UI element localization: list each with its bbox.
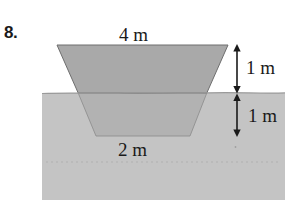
trapezoid-below-grade	[78, 93, 207, 136]
top-width-label: 4 m	[119, 25, 148, 44]
dimension-arrow-above-ground	[233, 44, 240, 94]
trapezoid-above-grade	[57, 45, 228, 93]
height-above-ground-label: 1 m	[246, 58, 275, 77]
scan-speck	[235, 146, 237, 148]
problem-number-label: 8.	[4, 24, 17, 41]
height-below-ground-label: 1 m	[248, 106, 277, 125]
ground-surface-line	[42, 93, 285, 94]
bottom-width-label: 2 m	[118, 140, 147, 159]
figure-canvas: 8. 4 m 2 m 1 m 1 m	[0, 0, 297, 212]
